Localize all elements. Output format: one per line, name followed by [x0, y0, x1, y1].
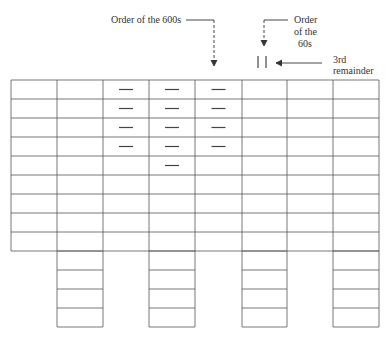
order-600s-label: Order of the 600s: [111, 14, 181, 26]
order-60s-label-2: of the: [294, 26, 317, 38]
tally-marks: [258, 56, 266, 68]
arrow-remainder: [276, 60, 322, 66]
sub-tables: [57, 251, 379, 327]
order-60s-label-3: 60s: [298, 38, 312, 50]
order-60s-label-1: Order: [294, 14, 317, 26]
arrow-60s: [261, 20, 288, 46]
dash-marks: [119, 90, 226, 166]
arrow-600s: [186, 20, 217, 66]
main-grid: [11, 80, 379, 251]
tens-place-diagram: [0, 0, 392, 340]
remainder-label-2: remainder: [333, 65, 374, 77]
